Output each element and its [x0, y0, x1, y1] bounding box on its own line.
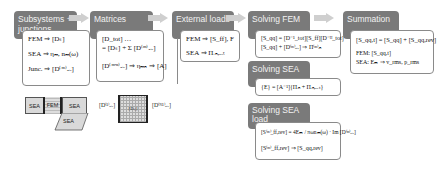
stage-matrices-line-3: [D⁽ᵐ'ⁿ⁾ₐᵢᵣ] ⇒ ηₘₙ ⇒ [A]	[102, 62, 158, 71]
fem-block: FEM	[43, 97, 62, 114]
arrow-right-icon	[69, 13, 89, 23]
stage-solving-sea-load-box: [S⁽ᵐ⁾_ff,rev] = 4Eₘ / πωnₘ(ω) · Im [D⁽ᵐ⁾…	[255, 122, 341, 160]
stage-matrices-line-2: = [Dₛ] + Σ [D⁽ᵐ⁾ₐᵢᵣ]	[102, 44, 158, 53]
stage-external-loads-line-1: FEM ⇒ [S_ff], F	[186, 35, 234, 44]
stage-matrices-box: [D_tot] … = [Dₛ] + Σ [D⁽ᵐ⁾ₐᵢᵣ] [D⁽ᵐ'ⁿ⁾ₐᵢ…	[96, 30, 164, 82]
stage-subsystems-line-2: SEA ⇒ ηₘ, nₘ(ω)	[28, 50, 84, 59]
stage-summation-line-3: SEA: Eₘ ⇒ v_rms, p_rms	[356, 58, 428, 67]
stage-solving-sea-box: {E} = [A⁻¹]{Πᵢₙ + Πᵢₙ,ₑₓₜ}	[255, 78, 341, 96]
stage-solving-sea-load-line-2: [S⁽ᵐ⁾_ff,rev] ⇒ [S_qq,rev]	[261, 144, 335, 153]
arrow-right-icon	[226, 13, 246, 23]
matrix-left-label: [D⁽¹⁾ₐᵢᵣ]	[99, 101, 115, 108]
stage-subsystems-box: FEM ⇒ [Dₛ] SEA ⇒ ηₘ, nₘ(ω) Junc. ⇒ [D⁽ᵐ⁾…	[22, 30, 90, 86]
stage-subsystems-line-3: Junc. ⇒ [D⁽ᵐ⁾ₐᵢᵣ]	[28, 65, 84, 74]
stage-subsystems-line-1: FEM ⇒ [Dₛ]	[28, 35, 84, 44]
connector-line	[177, 38, 178, 84]
sea-block-slanted-label: SEA	[63, 118, 74, 124]
sea-block-left: SEA	[25, 97, 44, 114]
stage-summation-line-1: [S_qq,t] = [S_qq] + [S_qq,rev]	[356, 35, 428, 44]
stage-solving-fem-line-2: [S_qq] + [D⁽ᵐ⁾ₐᵢᵣ] ⇒ Π⁽ᵐ⁾ᵢₙ	[261, 43, 335, 52]
stage-solving-fem-line-1: [S_qq] = [D⁻¹_tot][S_ff][D⁻ᴴ_tot]	[261, 34, 335, 43]
matrix-right-label: [D⁽ᴺ¹⁾ₐᵢᵣ]	[152, 101, 171, 108]
stage-summation-line-2: FEM: [S_qq,t]	[356, 49, 428, 58]
arrow-right-icon	[148, 13, 168, 23]
stage-external-loads-box: FEM ⇒ [S_ff], F SEA ⇒ Πᵢₙ,ₑₓₜ	[180, 30, 240, 62]
matrix-grid: [Dₛ]	[118, 95, 148, 123]
stage-solving-sea-load-line-1: [S⁽ᵐ⁾_ff,rev] = 4Eₘ / πωnₘ(ω) · Im [D⁽ᵐ⁾…	[261, 128, 335, 137]
stage-matrices-line-1: [D_tot] …	[102, 35, 158, 44]
stage-external-loads-line-2: SEA ⇒ Πᵢₙ,ₑₓₜ	[186, 49, 234, 58]
sea-block-right: SEA	[62, 97, 87, 114]
stage-solving-sea-line-1: {E} = [A⁻¹]{Πᵢₙ + Πᵢₙ,ₑₓₜ}	[261, 83, 335, 92]
arrow-right-icon	[314, 13, 334, 23]
stage-solving-fem-box: [S_qq] = [D⁻¹_tot][S_ff][D⁻ᴴ_tot] [S_qq]…	[255, 30, 341, 58]
matrix-center-label: [Dₛ]	[129, 106, 138, 111]
stage-summation-box: [S_qq,t] = [S_qq] + [S_qq,rev] FEM: [S_q…	[350, 30, 434, 74]
